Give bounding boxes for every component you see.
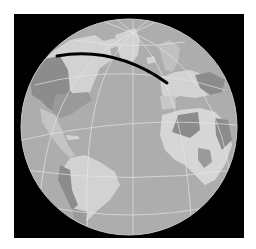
globe-map [0,0,256,249]
